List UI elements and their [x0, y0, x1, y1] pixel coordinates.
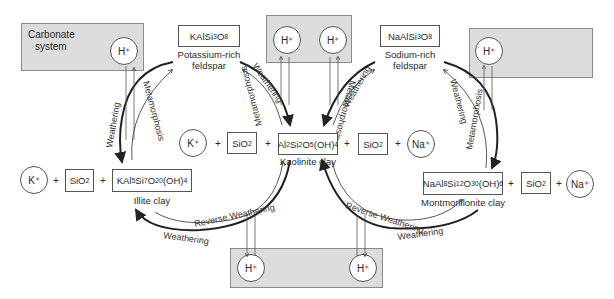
k-ion-middle: K⁺: [179, 129, 207, 157]
na-feldspar-formula: NaAlSi3O8: [380, 25, 440, 47]
na-ion-right: Na⁺: [566, 170, 594, 198]
montmorillonite-name: Montmorillonite clay: [418, 197, 508, 208]
k-feldspar-formula: KAlSi3O8: [178, 25, 240, 47]
plus-sign: +: [100, 175, 106, 186]
illite-name: Illite clay: [112, 195, 192, 206]
plus-sign: +: [556, 178, 562, 189]
plus-sign: +: [395, 138, 401, 149]
label-weathering-bottom-left: Weathering: [163, 230, 210, 246]
plus-sign: +: [215, 138, 221, 149]
label-weathering-right: Weathering: [448, 78, 470, 125]
sio2-left: SiO2: [65, 169, 94, 192]
plus-sign: +: [508, 178, 514, 189]
na-ion-middle: Na⁺: [407, 130, 435, 158]
plus-sign: +: [344, 138, 350, 149]
sio2-right: SiO2: [521, 172, 551, 194]
plus-sign: +: [53, 175, 59, 186]
kaolinite-name: Kaolinite clay: [278, 156, 338, 167]
k-ion-left: K⁺: [20, 166, 48, 194]
sio2-middle-left: SiO2: [227, 132, 257, 154]
na-feldspar-name: Sodium-rich feldspar: [378, 49, 442, 71]
illite-formula: KAl5Si7O20(OH)4: [112, 169, 192, 192]
kaolinite-formula: Al2Si2O5(OH)4: [278, 133, 338, 155]
plus-sign: +: [265, 138, 271, 149]
label-metamorphosis-left: Metamorphosis: [141, 80, 167, 142]
k-feldspar-name: Potassium-rich feldspar: [172, 49, 246, 71]
montmorillonite-formula: NaAl8Si12O30(OH)6: [423, 172, 503, 195]
sio2-middle-right: SiO2: [358, 133, 388, 155]
